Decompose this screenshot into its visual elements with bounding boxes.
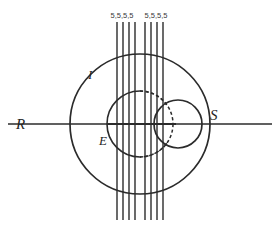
- diagram-canvas: 5,5,5,5 5,5,5,5 R S I E: [0, 0, 280, 229]
- label-S: S: [210, 107, 218, 123]
- label-R: R: [15, 116, 25, 132]
- top-tick-label-group-a: 5,5,5,5: [111, 11, 134, 20]
- label-E: E: [98, 133, 107, 148]
- physics-diagram: 5,5,5,5 5,5,5,5 R S I E: [0, 0, 280, 229]
- label-I: I: [87, 67, 93, 82]
- top-tick-label-group-b: 5,5,5,5: [145, 11, 168, 20]
